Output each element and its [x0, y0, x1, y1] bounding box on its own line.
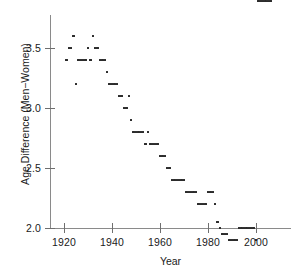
data-point — [70, 47, 72, 49]
plot-area — [0, 0, 299, 278]
data-point — [168, 167, 170, 169]
data-point — [236, 239, 238, 241]
data-point — [89, 59, 91, 61]
data-point — [87, 47, 89, 49]
data-point — [252, 227, 254, 229]
data-point — [130, 119, 132, 121]
y-axis-label-holder: Age Difference (Men−Women) — [15, 14, 33, 214]
data-point — [214, 203, 216, 205]
x-axis-label: Year — [50, 255, 291, 267]
data-point — [204, 203, 206, 205]
data-point — [65, 59, 67, 61]
data-point — [164, 155, 166, 157]
data-point — [156, 143, 158, 145]
data-point — [212, 191, 214, 193]
data-point — [120, 95, 122, 97]
data-point — [104, 59, 106, 61]
data-point — [84, 59, 86, 61]
y-axis-label: Age Difference (Men−Women) — [19, 43, 31, 185]
data-point — [226, 233, 228, 235]
data-point — [183, 179, 185, 181]
data-point — [219, 227, 221, 229]
data-point — [255, 239, 257, 241]
data-point — [96, 47, 98, 49]
scatter-chart-figure: 2.02.53.03.5 19201940196019802000 Year A… — [0, 0, 299, 278]
data-point — [106, 71, 108, 73]
data-point — [92, 35, 94, 37]
data-point — [269, 0, 271, 2]
data-point — [216, 221, 218, 223]
data-point — [144, 143, 146, 145]
data-point — [195, 191, 197, 193]
data-point — [125, 107, 127, 109]
data-point — [72, 35, 74, 37]
data-point — [142, 131, 144, 133]
data-point — [128, 95, 130, 97]
data-point — [116, 83, 118, 85]
data-point — [75, 83, 77, 85]
data-point — [147, 131, 149, 133]
